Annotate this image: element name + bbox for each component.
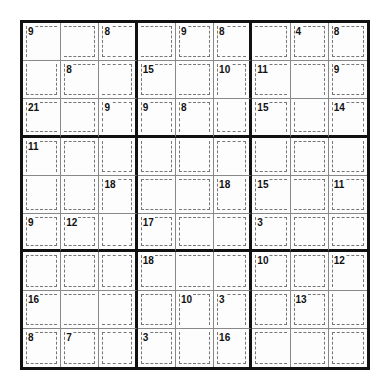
cage-sum-label: 15: [142, 64, 155, 75]
grid-cell[interactable]: [214, 252, 252, 290]
grid-cell[interactable]: 4: [291, 23, 329, 61]
grid-cell[interactable]: [214, 214, 252, 252]
grid-cell[interactable]: 12: [61, 214, 99, 252]
grid-cell[interactable]: 8: [329, 23, 367, 61]
grid-cell[interactable]: [329, 329, 367, 367]
cage-outline: [255, 141, 286, 172]
grid-cell[interactable]: 9: [99, 99, 137, 137]
grid-cell[interactable]: 18: [214, 176, 252, 214]
grid-cell[interactable]: 3: [214, 291, 252, 329]
grid-cell[interactable]: [291, 214, 329, 252]
grid-cell[interactable]: [61, 23, 99, 61]
grid-cell[interactable]: [99, 252, 137, 290]
grid-cell[interactable]: 8: [214, 23, 252, 61]
grid-cell[interactable]: [61, 176, 99, 214]
grid-cell[interactable]: [176, 138, 214, 176]
grid-cell[interactable]: [214, 138, 252, 176]
grid-cell[interactable]: [329, 138, 367, 176]
grid-cell[interactable]: [23, 176, 61, 214]
grid-cell[interactable]: [291, 176, 329, 214]
grid-cell[interactable]: [99, 214, 137, 252]
grid-cell[interactable]: [138, 291, 176, 329]
grid-cell[interactable]: 13: [291, 291, 329, 329]
grid-cell[interactable]: [176, 214, 214, 252]
cage-outline: [64, 179, 95, 210]
grid-cell[interactable]: [61, 138, 99, 176]
grid-cell[interactable]: [176, 329, 214, 367]
grid-cell[interactable]: 15: [138, 61, 176, 99]
grid-cell[interactable]: 10: [214, 61, 252, 99]
grid-cell[interactable]: 15: [252, 176, 290, 214]
grid-cell[interactable]: 9: [23, 214, 61, 252]
grid-cell[interactable]: [291, 61, 329, 99]
killer-sudoku-grid: 9898488151011921998151411181815119121731…: [20, 20, 370, 370]
grid-cell[interactable]: [99, 291, 137, 329]
grid-cell[interactable]: [176, 176, 214, 214]
grid-cell[interactable]: 11: [329, 176, 367, 214]
grid-cell[interactable]: 3: [138, 329, 176, 367]
cage-outline: [294, 64, 325, 95]
cage-outline: [294, 179, 325, 210]
grid-cell[interactable]: [291, 329, 329, 367]
grid-cell[interactable]: [61, 291, 99, 329]
grid-cell[interactable]: 18: [138, 252, 176, 290]
grid-cell[interactable]: 18: [99, 176, 137, 214]
grid-cell[interactable]: [61, 99, 99, 137]
cage-sum-label: 9: [142, 102, 150, 113]
cage-sum-label: 3: [142, 332, 150, 343]
grid-cell[interactable]: [291, 99, 329, 137]
cage-outline: [332, 217, 364, 246]
grid-cell[interactable]: [99, 61, 137, 99]
grid-cell[interactable]: [252, 138, 290, 176]
grid-cell[interactable]: 8: [99, 23, 137, 61]
grid-cell[interactable]: 8: [176, 99, 214, 137]
grid-cell[interactable]: [291, 138, 329, 176]
grid-cell[interactable]: 16: [23, 291, 61, 329]
cage-sum-label: 10: [256, 255, 269, 266]
grid-cell[interactable]: [252, 291, 290, 329]
cage-outline: [294, 141, 325, 172]
grid-cell[interactable]: [23, 61, 61, 99]
grid-cell[interactable]: [138, 23, 176, 61]
grid-cell[interactable]: 17: [138, 214, 176, 252]
grid-cell[interactable]: [99, 138, 137, 176]
grid-cell[interactable]: [99, 329, 137, 367]
grid-cell[interactable]: [329, 291, 367, 329]
grid-cell[interactable]: 7: [61, 329, 99, 367]
grid-cell[interactable]: [176, 252, 214, 290]
grid-cell[interactable]: 9: [176, 23, 214, 61]
grid-cell[interactable]: [138, 138, 176, 176]
grid-cell[interactable]: 8: [23, 329, 61, 367]
grid-cell[interactable]: [23, 252, 61, 290]
grid-cell[interactable]: [61, 252, 99, 290]
grid-cell[interactable]: 9: [329, 61, 367, 99]
grid-cell[interactable]: [176, 61, 214, 99]
grid-cell[interactable]: 11: [252, 61, 290, 99]
cage-outline: [64, 26, 95, 57]
grid-cell[interactable]: [214, 99, 252, 137]
cage-outline: [102, 255, 131, 286]
cage-outline: [217, 102, 246, 131]
grid-cell[interactable]: [291, 252, 329, 290]
cage-sum-label: 9: [333, 64, 341, 75]
cage-sum-label: 9: [103, 102, 111, 113]
grid-cell[interactable]: [252, 329, 290, 367]
cage-sum-label: 18: [142, 255, 155, 266]
grid-cell[interactable]: 3: [252, 214, 290, 252]
grid-cell[interactable]: 9: [138, 99, 176, 137]
grid-cell[interactable]: 10: [176, 291, 214, 329]
grid-cell[interactable]: [329, 214, 367, 252]
grid-cell[interactable]: 14: [329, 99, 367, 137]
grid-cell[interactable]: 11: [23, 138, 61, 176]
grid-cell[interactable]: 10: [252, 252, 290, 290]
grid-cell[interactable]: 9: [23, 23, 61, 61]
grid-cell[interactable]: [252, 23, 290, 61]
grid-cell[interactable]: [138, 176, 176, 214]
grid-cell[interactable]: 15: [252, 99, 290, 137]
grid-cell[interactable]: 8: [61, 61, 99, 99]
grid-cell[interactable]: 12: [329, 252, 367, 290]
grid-cell[interactable]: 21: [23, 99, 61, 137]
cage-outline: [332, 294, 364, 325]
cage-outline: [217, 255, 246, 286]
grid-cell[interactable]: 16: [214, 329, 252, 367]
